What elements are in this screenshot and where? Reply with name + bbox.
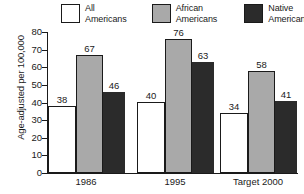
chart-legend: All Americans African Americans Native A…	[0, 3, 304, 29]
bar-target2000-all-americans: 34	[220, 113, 248, 173]
y-tick-label-70: 70	[31, 45, 42, 55]
y-tick-label-60: 60	[31, 63, 42, 73]
bar-1995-all-americans: 40	[137, 102, 165, 173]
bar-group-target-2000: 34 58 41	[220, 30, 297, 173]
bar-value-target2000-native-americans: 41	[281, 90, 292, 100]
bar-1986-all-americans: 38	[48, 106, 76, 173]
y-tick-label-40: 40	[31, 98, 42, 108]
bar-chart-figure: All Americans African Americans Native A…	[0, 0, 304, 194]
legend-swatch-dark-icon	[244, 4, 263, 23]
bar-value-target2000-african-americans: 58	[256, 60, 267, 70]
x-tick-label-target-2000: Target 2000	[233, 176, 283, 188]
bar-target2000-african-americans: 58	[248, 71, 275, 173]
bar-1995-native-americans: 63	[192, 62, 214, 173]
legend-item-native-americans: Native Americans	[244, 3, 304, 24]
bar-target2000-native-americans: 41	[275, 101, 297, 173]
y-tick-label-50: 50	[31, 80, 42, 90]
y-tick-label-80: 80	[31, 27, 42, 37]
bar-value-1986-all-americans: 38	[57, 95, 68, 105]
x-axis-line	[47, 173, 298, 174]
y-axis-tick-labels: 80 70 60 50 40 30 20 10 0	[18, 30, 42, 173]
bar-value-1986-african-americans: 67	[84, 44, 95, 54]
legend-swatch-gray-icon	[152, 4, 171, 23]
bar-group-1986: 38 67 46	[48, 30, 125, 173]
x-tick-label-1995: 1995	[164, 176, 185, 188]
legend-label-all-americans: All Americans	[85, 3, 127, 24]
bar-value-1995-african-americans: 76	[173, 28, 184, 38]
bar-1995-african-americans: 76	[165, 39, 192, 173]
y-tick-label-10: 10	[31, 151, 42, 161]
legend-label-native-americans: Native Americans	[268, 3, 304, 24]
bars-container: 38 67 46 40 76 63	[48, 30, 298, 173]
legend-item-all-americans: All Americans	[61, 3, 127, 24]
y-tick-label-30: 30	[31, 115, 42, 125]
x-axis-tick-labels: 1986 1995 Target 2000	[48, 176, 298, 192]
plot-area: Age-adjusted per 100,000 80 70 60 50 40 …	[0, 30, 304, 194]
bar-value-target2000-all-americans: 34	[229, 102, 240, 112]
bar-1986-african-americans: 67	[76, 55, 103, 173]
bar-value-1986-native-americans: 46	[109, 81, 120, 91]
bar-1986-native-americans: 46	[103, 92, 125, 173]
y-tick-label-20: 20	[31, 133, 42, 143]
legend-swatch-white-icon	[61, 4, 80, 23]
x-tick-label-1986: 1986	[75, 176, 96, 188]
bar-value-1995-all-americans: 40	[146, 91, 157, 101]
legend-item-african-americans: African Americans	[152, 3, 218, 24]
bar-group-1995: 40 76 63	[137, 30, 214, 173]
legend-label-african-americans: African Americans	[176, 3, 218, 24]
bar-value-1995-native-americans: 63	[198, 51, 209, 61]
